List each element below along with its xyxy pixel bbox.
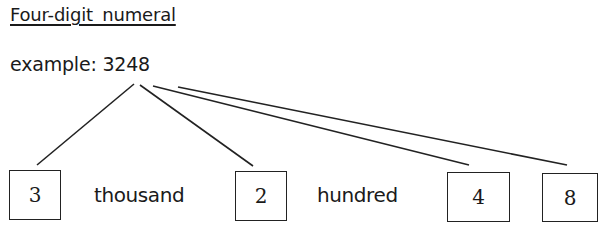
place-word-hundred: hundred bbox=[317, 183, 398, 207]
connector-to-tens bbox=[153, 86, 469, 165]
digit-box-hundreds: 2 bbox=[235, 171, 287, 221]
digit-box-tens: 4 bbox=[447, 172, 510, 222]
connector-to-thousands bbox=[37, 84, 134, 165]
place-word-thousand: thousand bbox=[94, 183, 184, 207]
connector-lines bbox=[0, 0, 610, 234]
digit-box-ones: 8 bbox=[542, 173, 598, 222]
digit-box-thousands: 3 bbox=[9, 170, 61, 220]
